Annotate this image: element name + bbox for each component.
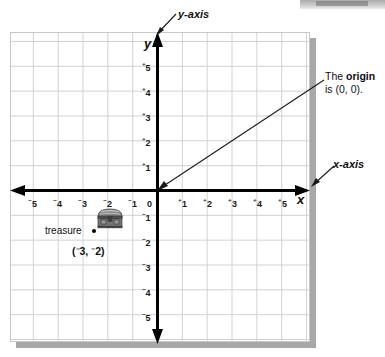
x-tick-value: 4 [257, 198, 262, 208]
x-tick-pos5: ⁺5 [274, 198, 292, 209]
y-axis-callout-leader [158, 14, 176, 33]
y-tick-pos1: ⁺1 [133, 162, 151, 173]
coordinate-plane-figure: y x ⁻5⁻4⁻3⁻2⁻10⁺1⁺2⁺3⁺4⁺5 ⁺5⁺4⁺3⁺2⁺1⁻1⁻2… [0, 0, 385, 357]
x-tick-neg1: ⁻1 [124, 198, 142, 209]
treasure-chest-icon [95, 206, 125, 230]
x-tick-neg4: ⁻4 [49, 198, 67, 209]
y-tick-neg5: ⁻5 [133, 312, 151, 323]
y-tick-value: 5 [145, 312, 150, 322]
x-tick-pos3: ⁺3 [224, 198, 242, 209]
y-tick-value: 3 [145, 112, 150, 122]
x-tick-value: 5 [32, 198, 37, 208]
x-tick-pos4: ⁺4 [249, 198, 267, 209]
y-tick-pos5: ⁺5 [133, 62, 151, 73]
y-tick-neg1: ⁻1 [133, 212, 151, 223]
page-edge-artifact-dark [316, 1, 368, 6]
y-tick-value: 2 [145, 237, 150, 247]
x-tick-value: 4 [57, 198, 62, 208]
y-tick-pos4: ⁺4 [133, 87, 151, 98]
y-tick-neg4: ⁻4 [133, 287, 151, 298]
x-tick-value: 0 [147, 198, 152, 208]
y-tick-value: 4 [145, 287, 150, 297]
y-tick-pos3: ⁺3 [133, 112, 151, 123]
x-tick-value: 5 [282, 198, 287, 208]
x-tick-neg5: ⁻5 [24, 198, 42, 209]
origin-callout-bold: origin [346, 70, 375, 82]
y-tick-neg3: ⁻3 [133, 262, 151, 273]
y-tick-neg2: ⁻2 [133, 237, 151, 248]
treasure-coordinates: (⁻3, ⁻2) [72, 246, 105, 257]
x-tick-value: 3 [82, 198, 87, 208]
coords-close-paren: ) [101, 245, 105, 257]
x-tick-pos1: ⁺1 [174, 198, 192, 209]
grid-lines [11, 33, 309, 341]
grid-panel [10, 32, 310, 342]
x-tick-value: 2 [207, 198, 212, 208]
y-axis-letter: y [144, 37, 151, 50]
y-tick-value: 1 [145, 162, 150, 172]
y-tick-value: 4 [145, 87, 150, 97]
y-tick-value: 3 [145, 262, 150, 272]
origin-callout-prefix: The [325, 70, 346, 82]
origin-callout-line1: The origin [325, 70, 375, 83]
x-tick-neg3: ⁻3 [74, 198, 92, 209]
x-axis-callout-label: x-axis [333, 158, 364, 172]
y-tick-value: 2 [145, 137, 150, 147]
origin-callout-line2: is (0, 0). [325, 83, 375, 96]
y-axis-callout-label: y-axis [178, 8, 209, 22]
x-axis-callout-leader [314, 166, 334, 184]
y-tick-pos2: ⁺2 [133, 137, 151, 148]
origin-callout-label: The origin is (0, 0). [325, 70, 375, 96]
x-tick-value: 1 [182, 198, 187, 208]
x-tick-zero0: 0 [141, 198, 159, 209]
y-tick-value: 5 [145, 62, 150, 72]
x-tick-value: 3 [232, 198, 237, 208]
y-tick-value: 1 [145, 212, 150, 222]
treasure-point-marker [92, 229, 96, 233]
x-tick-pos2: ⁺2 [199, 198, 217, 209]
x-tick-value: 1 [132, 198, 137, 208]
x-axis-letter: x [297, 193, 304, 206]
treasure-label: treasure [45, 226, 82, 236]
